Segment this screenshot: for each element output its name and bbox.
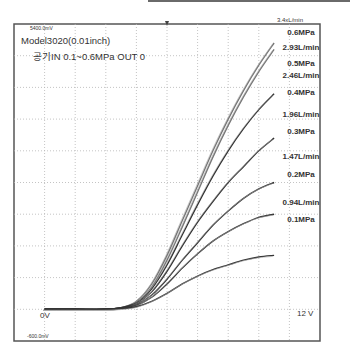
scale-bottom-label: -600.0mV <box>27 333 49 339</box>
series-line-0-6MPa <box>45 43 275 309</box>
series-line-echo <box>43 44 273 310</box>
annotation-label: 2.46L/min <box>283 71 320 80</box>
annotation-label: 0.5MPa <box>287 59 315 68</box>
annotations: 0.6MPa2.93L/min0.5MPa2.46L/min0.4MPa1.96… <box>283 28 320 224</box>
ref-voltage-label: 12 V <box>297 309 314 318</box>
top-cut-label: 3.4xL/min <box>277 17 303 23</box>
annotation-label: 0.2MPa <box>287 170 315 179</box>
curves <box>43 43 274 310</box>
series-line-echo <box>43 184 273 311</box>
annotation-label: 0.1MPa <box>287 215 315 224</box>
scale-top-label: 5400.0mV <box>30 25 53 31</box>
annotation-label: 0.4MPa <box>287 88 315 97</box>
annotation-label: 2.93L/min <box>283 43 320 52</box>
annotation-label: 1.96L/min <box>283 110 320 119</box>
series-line-echo <box>43 215 273 310</box>
zero-label: 0V <box>40 311 50 320</box>
annotation-label: 1.47L/min <box>283 152 320 161</box>
chart-subtitle: 공기IN 0.1~0.6MPa OUT 0 <box>33 51 145 62</box>
annotation-label: 0.6MPa <box>287 28 315 37</box>
chart-title: Model3020(0.01inch) <box>21 35 110 46</box>
annotation-label: 0.94L/min <box>283 198 320 207</box>
series-line-0-4MPa <box>45 138 275 309</box>
oscilloscope-chart: 5400.0mV Model3020(0.01inch) 공기IN 0.1~0.… <box>0 0 350 354</box>
annotation-label: 0.3MPa <box>287 127 315 136</box>
